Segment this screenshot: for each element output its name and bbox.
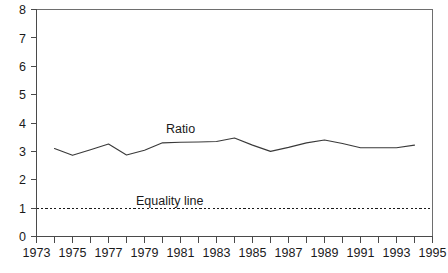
y-tick-label: 6 bbox=[19, 60, 26, 74]
x-tick-label: 1993 bbox=[383, 246, 411, 260]
ratio-data-line bbox=[55, 138, 415, 155]
y-tick-label: 8 bbox=[19, 3, 26, 17]
y-tick-label: 0 bbox=[19, 230, 26, 244]
ratio-series-label: Ratio bbox=[166, 122, 195, 136]
x-tick-label: 1991 bbox=[347, 246, 375, 260]
x-tick-label: 1979 bbox=[131, 246, 159, 260]
plot-frame-border bbox=[37, 10, 433, 237]
x-tick-label: 1983 bbox=[203, 246, 231, 260]
chart-container: 8 7 6 5 4 3 2 1 0 bbox=[0, 0, 448, 273]
ratio-line-chart: 8 7 6 5 4 3 2 1 0 bbox=[0, 0, 448, 273]
x-tick-label: 1973 bbox=[23, 246, 51, 260]
y-axis-ticks bbox=[31, 10, 37, 237]
y-tick-label: 7 bbox=[19, 32, 26, 46]
x-tick-label: 1989 bbox=[311, 246, 339, 260]
x-axis-tick-labels: 1973 1975 1977 1979 1981 1983 1985 1987 … bbox=[23, 246, 447, 260]
y-tick-label: 5 bbox=[19, 88, 26, 102]
x-tick-label: 1985 bbox=[239, 246, 267, 260]
x-tick-label: 1975 bbox=[59, 246, 87, 260]
x-tick-label: 1995 bbox=[419, 246, 447, 260]
y-tick-label: 2 bbox=[19, 173, 26, 187]
x-axis-ticks bbox=[37, 237, 433, 243]
x-tick-label: 1981 bbox=[167, 246, 195, 260]
y-tick-label: 4 bbox=[19, 117, 26, 131]
equality-line-label: Equality line bbox=[136, 194, 203, 208]
x-tick-label: 1977 bbox=[95, 246, 123, 260]
x-tick-label: 1987 bbox=[275, 246, 303, 260]
y-tick-label: 3 bbox=[19, 145, 26, 159]
y-axis-tick-labels: 8 7 6 5 4 3 2 1 0 bbox=[19, 3, 26, 244]
y-tick-label: 1 bbox=[19, 202, 26, 216]
